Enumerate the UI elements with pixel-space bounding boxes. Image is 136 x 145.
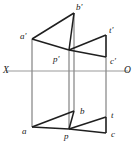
edge-a-p <box>32 127 69 129</box>
axis-label-x: X <box>3 66 9 76</box>
edge-b-prime-p-prime <box>69 13 74 50</box>
projection-diagram: X O a' b' p' t' c' a b p t c <box>0 0 136 145</box>
point-label-c-prime: c' <box>110 57 116 66</box>
edge-b-p <box>69 111 74 129</box>
point-label-c: c <box>111 130 115 139</box>
edge-a-b <box>32 111 74 127</box>
axis-label-o: O <box>124 66 131 76</box>
point-label-b: b <box>80 107 85 116</box>
edge-a-prime-p-prime <box>32 39 69 50</box>
point-label-a: a <box>22 127 27 136</box>
point-label-p-prime: p' <box>53 55 59 64</box>
point-label-a-prime: a' <box>20 32 26 41</box>
edge-a-prime-b-prime <box>32 13 74 39</box>
diagram-canvas <box>0 0 136 145</box>
point-label-b-prime: b' <box>76 3 82 12</box>
point-label-t-prime: t' <box>109 26 113 35</box>
point-label-p: p <box>64 132 69 141</box>
edge-p-t <box>69 117 106 129</box>
edge-p-c <box>69 129 106 133</box>
point-label-t: t <box>111 111 114 120</box>
